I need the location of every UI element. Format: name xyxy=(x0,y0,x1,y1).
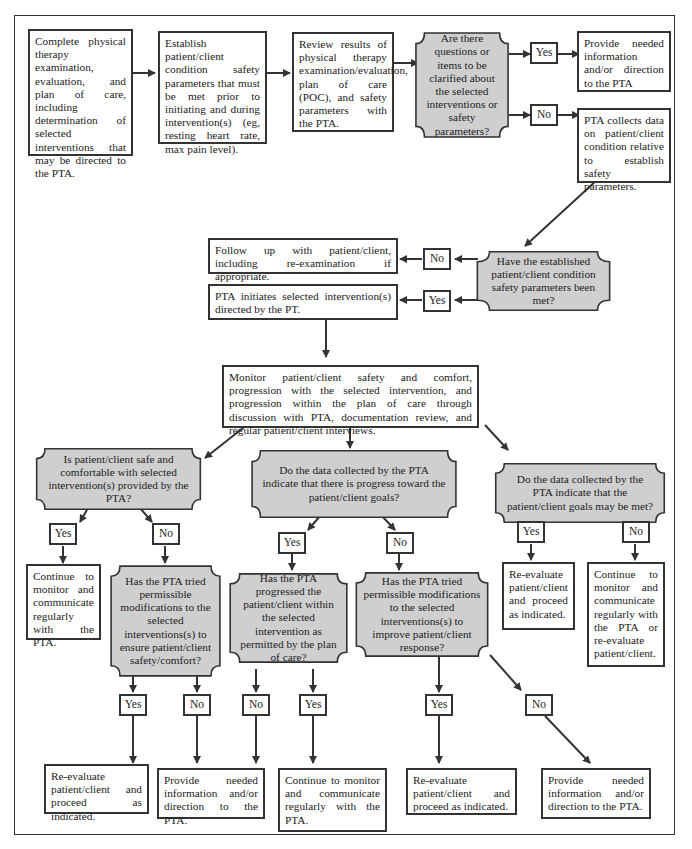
label-yes: Yes xyxy=(423,290,451,312)
decision-text: Do the data collected by the PTA indicat… xyxy=(250,462,458,506)
step-provide-info: Provide needed information and/or direct… xyxy=(577,31,671,92)
decision-safety-parameters-met: Have the established patient/client cond… xyxy=(476,251,611,311)
decision-goals-may-be-met: Do the data collected by the PTA indicat… xyxy=(494,463,666,523)
label-yes: Yes xyxy=(299,694,327,716)
step-establish-safety-parameters: Establish patient/client condition safet… xyxy=(158,31,267,144)
label-yes: Yes xyxy=(119,694,147,716)
step-reevaluate-goals-met: Re-evaluate patient/client and proceed a… xyxy=(502,562,575,630)
label-yes: Yes xyxy=(425,694,453,716)
label-yes: Yes xyxy=(517,521,545,543)
decision-text: Has the PTA progressed the patient/clien… xyxy=(229,570,348,666)
decision-questions-to-clarify: Are there questions or items to be clari… xyxy=(415,32,509,138)
label-no: No xyxy=(622,521,650,543)
label-no: No xyxy=(183,694,211,716)
step-continue-monitor-2: Continue to monitor and communicate regu… xyxy=(278,768,387,832)
decision-text: Have the established patient/client cond… xyxy=(476,253,611,310)
step-continue-monitor: Continue to monitor and communicate regu… xyxy=(26,564,101,640)
step-provide-info-1: Provide needed information and/or direct… xyxy=(157,768,265,819)
step-pta-collects-data: PTA collects data on patient/client cond… xyxy=(577,108,671,183)
decision-text: Are there questions or items to be clari… xyxy=(415,30,509,140)
decision-text: Has the PTA tried permissible modificati… xyxy=(110,573,221,669)
label-yes: Yes xyxy=(278,532,306,554)
label-no: No xyxy=(152,523,180,545)
step-reevaluate-2: Re-evaluate patient/client and proceed a… xyxy=(406,768,517,815)
label-no: No xyxy=(525,694,553,716)
step-pta-initiates: PTA initiates selected intervention(s) d… xyxy=(208,284,398,320)
decision-text: Is patient/client safe and comfortable w… xyxy=(35,451,202,508)
label-no: No xyxy=(386,532,414,554)
step-monitor-safety: Monitor patient/client safety and comfor… xyxy=(222,365,479,428)
decision-text: Has the PTA tried permissible modificati… xyxy=(355,573,489,656)
decision-safe-comfortable: Is patient/client safe and comfortable w… xyxy=(35,448,202,510)
step-continue-or-reevaluate: Continue to monitor and communicate regu… xyxy=(587,562,665,667)
step-complete-exam: Complete physical therapy examination, e… xyxy=(28,29,133,156)
label-yes: Yes xyxy=(49,523,77,545)
decision-text: Do the data collected by the PTA indicat… xyxy=(494,471,666,515)
step-follow-up: Follow up with patient/client, including… xyxy=(208,238,398,274)
step-review-results: Review results of physical therapy exami… xyxy=(292,32,394,132)
decision-progress-toward-goals: Do the data collected by the PTA indicat… xyxy=(250,450,458,518)
label-no: No xyxy=(530,104,558,126)
decision-tried-modifications-response: Has the PTA tried permissible modificati… xyxy=(355,572,489,657)
step-reevaluate-1: Re-evaluate patient/client and proceed a… xyxy=(44,764,149,814)
decision-progressed-patient: Has the PTA progressed the patient/clien… xyxy=(229,573,348,663)
step-provide-info-2: Provide needed information and/or direct… xyxy=(541,768,651,819)
label-no: No xyxy=(242,694,270,716)
decision-tried-modifications-safety: Has the PTA tried permissible modificati… xyxy=(110,565,221,677)
label-no: No xyxy=(423,248,451,270)
label-yes: Yes xyxy=(530,42,558,64)
